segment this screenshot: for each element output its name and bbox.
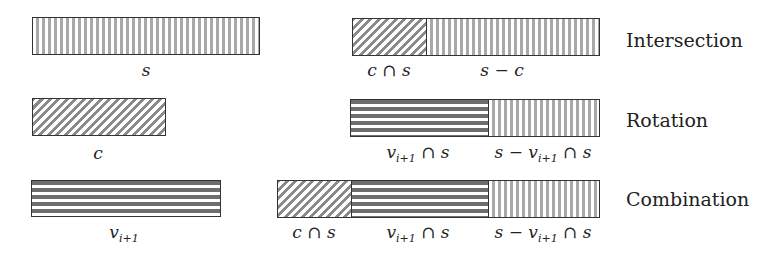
set-v-bar [31, 180, 221, 217]
v-intersect-s-segment [351, 181, 488, 217]
set-c-label: c [93, 145, 103, 162]
label-main: v [109, 222, 119, 242]
c-intersect-s-label: c ∩ s [367, 62, 410, 79]
label-suffix: ∩ s [558, 142, 592, 162]
label-main: v [386, 142, 396, 162]
set-c-bar [32, 98, 166, 136]
rotation-bar [350, 99, 600, 137]
set-s-label: s [142, 62, 151, 79]
v-intersect-s-label: vi+1 ∩ s [386, 144, 449, 164]
v-intersect-s-segment [351, 100, 488, 136]
intersection-bar [352, 18, 600, 56]
diagonal-hatch [33, 99, 165, 135]
vertical-hatch [33, 18, 259, 54]
s-minus-v-intersect-s-label: s − vi+1 ∩ s [495, 144, 592, 164]
c-intersect-s-label: c ∩ s [292, 224, 335, 241]
horizontal-hatch [32, 181, 220, 216]
set-s-bar [32, 17, 260, 55]
label-main: s − v [495, 142, 538, 162]
label-suffix: ∩ s [416, 222, 450, 242]
s-minus-v-intersect-s-segment [488, 181, 599, 217]
v-intersect-s-label: vi+1 ∩ s [386, 224, 449, 244]
label-suffix: ∩ s [416, 142, 450, 162]
set-v-label: vi+1 [109, 224, 138, 244]
s-minus-v-intersect-s-segment [488, 100, 599, 136]
c-intersect-s-segment [353, 19, 426, 55]
s-minus-v-intersect-s-label: s − vi+1 ∩ s [495, 224, 592, 244]
c-intersect-s-segment [278, 181, 351, 217]
s-minus-c-segment [426, 19, 599, 55]
label-sub: i+1 [396, 152, 416, 165]
row-label-rotation: Rotation [626, 111, 708, 130]
s-minus-c-label: s − c [480, 62, 523, 79]
label-suffix: ∩ s [558, 222, 592, 242]
row-label-combination: Combination [626, 190, 749, 209]
label-main: v [386, 222, 396, 242]
label-sub: i+1 [119, 232, 139, 245]
label-sub: i+1 [538, 232, 558, 245]
row-label-intersection: Intersection [626, 31, 743, 50]
label-sub: i+1 [538, 152, 558, 165]
label-sub: i+1 [396, 232, 416, 245]
combination-bar [277, 180, 600, 218]
label-main: s − v [495, 222, 538, 242]
